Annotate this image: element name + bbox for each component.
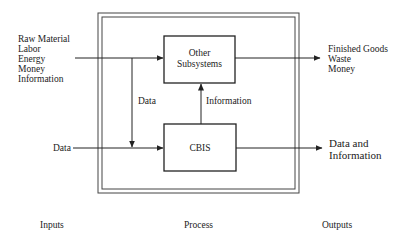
physical-output-list: Finished Goods Waste Money xyxy=(328,44,388,74)
output-information: Information xyxy=(329,149,382,161)
input-labor: Labor xyxy=(18,44,42,54)
cbis-label: CBIS xyxy=(189,143,210,153)
input-raw-material: Raw Material xyxy=(18,34,70,44)
input-energy: Energy xyxy=(18,54,46,64)
information-flow-label: Information xyxy=(206,96,252,106)
input-resource-list: Raw Material Labor Energy Money Informat… xyxy=(18,34,70,84)
input-data-label: Data xyxy=(53,143,72,153)
other-subsystems-label-2: Subsystems xyxy=(177,59,222,69)
info-output-list: Data and Information xyxy=(329,137,382,161)
output-data-and: Data and xyxy=(329,137,369,149)
footer-outputs: Outputs xyxy=(322,220,352,230)
cbis-system-diagram: Raw Material Labor Energy Money Informat… xyxy=(0,0,405,244)
input-information: Information xyxy=(18,74,64,84)
output-waste: Waste xyxy=(328,54,351,64)
data-flow-label: Data xyxy=(138,96,157,106)
footer-process: Process xyxy=(184,220,213,230)
output-finished-goods: Finished Goods xyxy=(328,44,388,54)
output-money: Money xyxy=(328,64,355,74)
other-subsystems-label-1: Other xyxy=(189,48,211,58)
input-money: Money xyxy=(18,64,45,74)
footer-inputs: Inputs xyxy=(40,220,64,230)
